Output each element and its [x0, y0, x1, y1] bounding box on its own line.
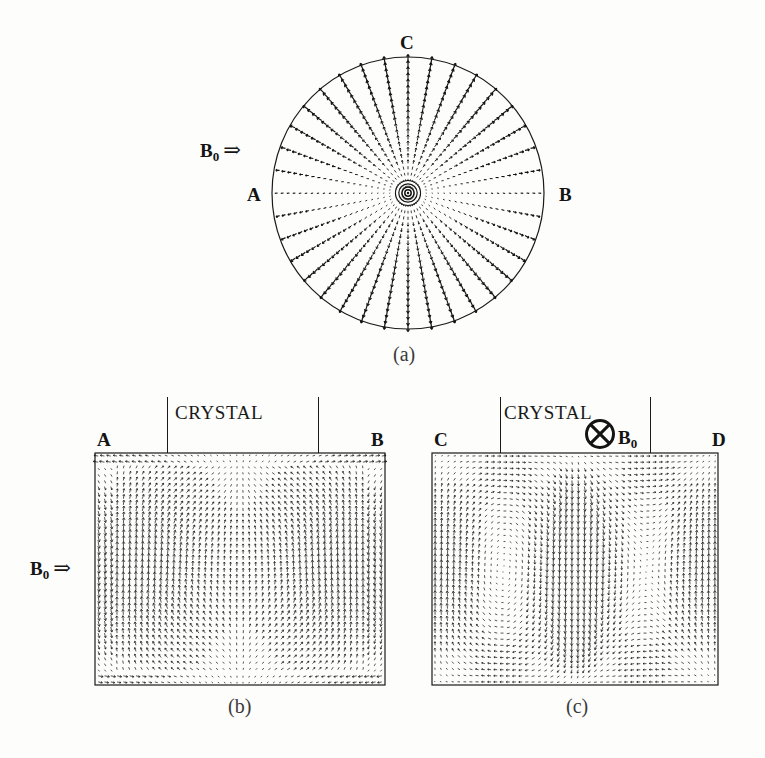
panel-a-vector-field [0, 0, 765, 380]
panel-a: C A B B0⇒ (a) [0, 0, 765, 380]
panel-a-caption: (a) [393, 343, 415, 366]
panel-c: CRYSTAL B0 C D (c) [400, 390, 765, 758]
panel-c-vector-field [400, 390, 765, 710]
figure-root: C A B B0⇒ (a) CRYSTAL A B B0⇒ (b) CRYSTA… [0, 0, 765, 758]
panel-c-caption: (c) [566, 695, 588, 718]
panel-b-caption: (b) [228, 695, 251, 718]
panel-b-vector-field [0, 390, 400, 710]
panel-b: CRYSTAL A B B0⇒ (b) [0, 390, 400, 758]
